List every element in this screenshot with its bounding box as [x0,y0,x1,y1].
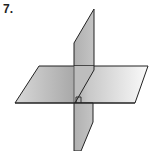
vertical-plane-lower [74,103,93,151]
vertical-plane-upper [74,9,94,66]
perpendicular-planes-figure [0,0,149,151]
